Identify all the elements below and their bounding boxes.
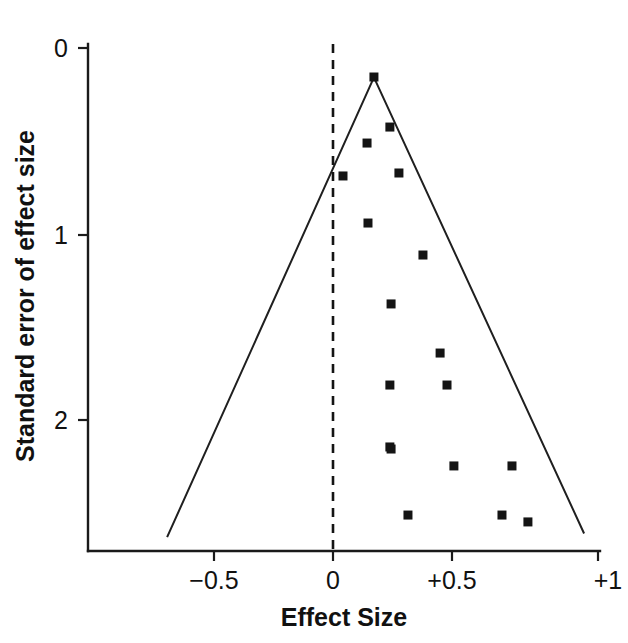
x-tick-label-0: 0 <box>326 566 340 594</box>
data-point-5 <box>363 219 372 228</box>
data-point-0 <box>369 73 378 82</box>
x-tick-label-pos-0-5: +0.5 <box>427 566 476 594</box>
pseudo-confidence-funnel <box>167 77 584 537</box>
y-tick-label-2: 2 <box>54 406 68 434</box>
y-axis-ticks: 0 1 2 <box>54 34 88 434</box>
data-point-2 <box>363 139 372 148</box>
x-tick-label-neg-0-5: −0.5 <box>189 566 238 594</box>
data-point-3 <box>394 168 403 177</box>
data-point-6 <box>418 251 427 260</box>
x-tick-label-pos-1: +1 <box>594 566 623 594</box>
x-axis-ticks: −0.5 0 +0.5 +1 <box>189 551 622 594</box>
data-point-17 <box>523 517 532 526</box>
x-axis-title: Effect Size <box>281 603 408 631</box>
axes-group <box>88 44 600 551</box>
data-point-9 <box>385 381 394 390</box>
data-point-12 <box>387 445 396 454</box>
funnel-plot-canvas: 0 1 2 −0.5 0 +0.5 +1 Effect Size Standar… <box>0 0 628 643</box>
data-point-14 <box>507 461 516 470</box>
data-point-10 <box>443 381 452 390</box>
data-point-1 <box>385 123 394 132</box>
data-point-7 <box>387 299 396 308</box>
y-tick-label-0: 0 <box>54 34 68 62</box>
data-point-15 <box>403 511 412 520</box>
data-point-13 <box>449 461 458 470</box>
y-tick-label-1: 1 <box>54 221 68 249</box>
data-point-8 <box>436 349 445 358</box>
data-point-4 <box>338 171 347 180</box>
funnel-plot-figure: 0 1 2 −0.5 0 +0.5 +1 Effect Size Standar… <box>0 0 628 643</box>
data-point-16 <box>497 511 506 520</box>
y-axis-title: Standard error of effect size <box>11 130 39 462</box>
study-data-points <box>338 73 532 527</box>
